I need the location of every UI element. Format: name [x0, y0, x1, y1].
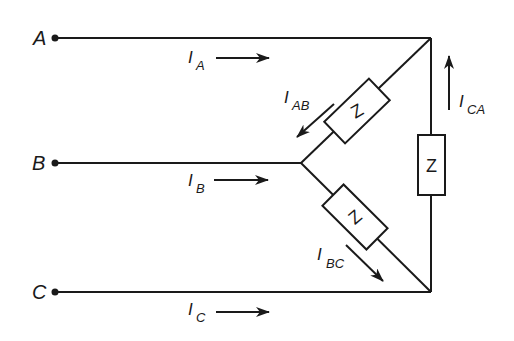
line-b	[52, 160, 302, 167]
current-ibc: I BC	[317, 245, 383, 281]
current-ica: I CA	[449, 56, 485, 117]
branch-bc: Z	[301, 163, 431, 292]
node-a-label: A	[32, 27, 46, 49]
svg-text:C: C	[196, 310, 206, 325]
current-ic: I C	[188, 300, 269, 325]
svg-text:B: B	[196, 181, 205, 196]
current-ib: I B	[188, 171, 268, 196]
node-c-label: C	[32, 281, 47, 303]
svg-text:BC: BC	[326, 256, 345, 271]
svg-text:Z: Z	[426, 156, 437, 176]
svg-text:I: I	[459, 92, 464, 111]
current-ia: I A	[188, 48, 269, 73]
svg-text:I: I	[188, 300, 193, 319]
impedance-ca: Z	[418, 135, 445, 195]
current-iab: I AB	[284, 88, 334, 137]
node-b-label: B	[32, 152, 45, 174]
svg-text:I: I	[317, 245, 322, 264]
line-c	[52, 289, 432, 296]
svg-text:AB: AB	[291, 98, 310, 113]
svg-text:CA: CA	[467, 102, 485, 117]
svg-text:I: I	[284, 88, 289, 107]
line-a	[52, 35, 432, 42]
svg-text:I: I	[188, 171, 193, 190]
svg-text:A: A	[195, 58, 205, 73]
svg-text:I: I	[188, 48, 193, 67]
branch-ca: Z	[418, 38, 445, 292]
arrow-down-right-icon	[346, 245, 383, 281]
delta-circuit-diagram: Z Z Z A B C I A I B I C I	[0, 0, 514, 341]
branch-ab: Z	[301, 38, 431, 163]
